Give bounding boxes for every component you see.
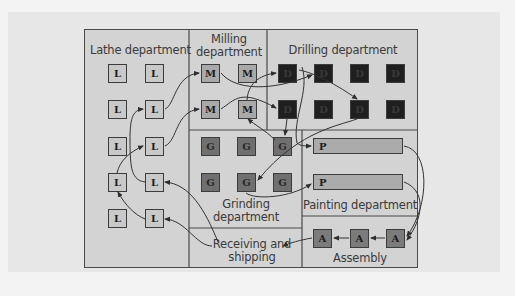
arrow-receiving-to-lathe-2 <box>165 182 218 242</box>
arrow-receiving-to-lathe <box>165 219 212 246</box>
material-flow-arrows <box>0 0 515 296</box>
